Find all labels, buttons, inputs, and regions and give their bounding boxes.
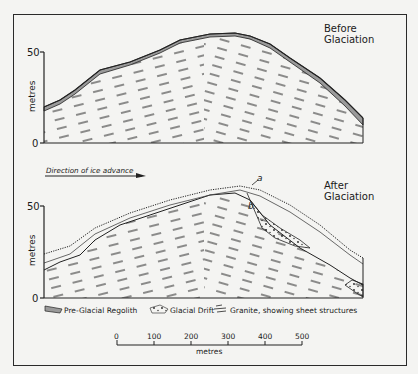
scale-tick-500: 500 bbox=[295, 332, 310, 341]
panel-title-line1: After bbox=[324, 180, 349, 191]
y-tick-0: 0 bbox=[32, 293, 38, 304]
legend-drift: Glacial Drift bbox=[170, 306, 214, 315]
y-axis-label: metres bbox=[27, 234, 37, 266]
glaciation-diagram: 50 0 metres Before Glaciation Direction … bbox=[0, 0, 418, 374]
arrow-head-icon bbox=[136, 173, 146, 178]
panel-title-line2: Glaciation bbox=[324, 34, 374, 45]
legend-granite: Granite, showing sheet structures bbox=[230, 306, 357, 315]
legend: Pre-Glacial Regolith Glacial Drift Grani… bbox=[45, 305, 357, 315]
label-b: b bbox=[248, 201, 254, 211]
granite-swatch-icon bbox=[214, 305, 226, 312]
y-tick-0: 0 bbox=[32, 138, 38, 149]
drift-swatch-icon bbox=[150, 305, 168, 313]
panel-title-line2: Glaciation bbox=[324, 191, 374, 202]
direction-label: Direction of ice advance bbox=[46, 166, 134, 175]
y-axis-label: metres bbox=[27, 80, 37, 112]
scale-tick-100: 100 bbox=[147, 332, 162, 341]
scale-tick-300: 300 bbox=[221, 332, 236, 341]
after-panel: Direction of ice advance a b 50 0 metres… bbox=[27, 166, 374, 304]
scale-unit: metres bbox=[196, 347, 222, 356]
y-tick-50: 50 bbox=[27, 201, 40, 212]
before-panel: 50 0 metres Before Glaciation bbox=[27, 23, 374, 149]
scale-bar: 0 100 200 300 400 500 metres bbox=[114, 332, 310, 356]
label-a: a bbox=[257, 173, 263, 183]
scale-tick-200: 200 bbox=[184, 332, 199, 341]
regolith-swatch-icon bbox=[45, 306, 62, 313]
legend-regolith: Pre-Glacial Regolith bbox=[64, 306, 138, 315]
scale-tick-400: 400 bbox=[258, 332, 273, 341]
panel-title-line1: Before bbox=[324, 23, 357, 34]
scale-tick-0: 0 bbox=[114, 332, 119, 341]
y-tick-50: 50 bbox=[27, 47, 40, 58]
